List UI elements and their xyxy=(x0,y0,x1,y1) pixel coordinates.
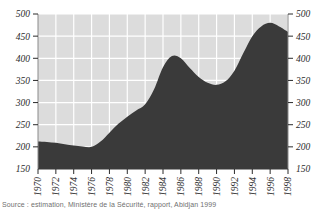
ytick-label-left: 500 xyxy=(16,9,31,19)
ytick-label-right: 350 xyxy=(295,76,311,86)
xtick-label: 1974 xyxy=(69,177,79,196)
xtick-label: 1972 xyxy=(51,177,61,196)
xtick-label: 1982 xyxy=(141,177,151,196)
chart-figure: 150200250300350400450500 150200250300350… xyxy=(0,0,328,210)
ytick-label-right: 300 xyxy=(295,98,311,108)
area-chart: 150200250300350400450500 150200250300350… xyxy=(0,0,328,210)
xtick-label: 1988 xyxy=(194,177,204,196)
xtick-label: 1976 xyxy=(87,177,97,196)
xtick-label: 1970 xyxy=(33,177,43,196)
ytick-label-right: 250 xyxy=(296,120,311,130)
ytick-label-right: 200 xyxy=(296,142,311,152)
ytick-label-left: 400 xyxy=(16,54,31,64)
ytick-label-left: 200 xyxy=(16,142,31,152)
ytick-label-right: 500 xyxy=(296,9,311,19)
xtick-label: 1986 xyxy=(176,177,186,196)
xtick-label: 1980 xyxy=(123,177,133,196)
xtick-label: 1996 xyxy=(266,177,276,196)
xtick-label: 1990 xyxy=(212,177,222,196)
xtick-label: 1992 xyxy=(230,177,240,196)
x-axis-bottom: 1970197219741976197819801982198419861988… xyxy=(33,169,293,196)
ytick-label-left: 150 xyxy=(16,164,31,174)
ytick-label-left: 350 xyxy=(15,76,31,86)
ytick-label-right: 150 xyxy=(296,164,311,174)
y-axis-left: 150200250300350400450500 xyxy=(15,9,38,174)
ytick-label-left: 250 xyxy=(16,120,31,130)
source-caption: Source : estimation, Ministère de la Séc… xyxy=(2,200,328,210)
y-axis-right: 150200250300350400450500 xyxy=(288,9,311,174)
ytick-label-left: 300 xyxy=(15,98,31,108)
xtick-label: 1984 xyxy=(158,177,168,196)
ytick-label-right: 400 xyxy=(296,54,311,64)
xtick-label: 1998 xyxy=(283,177,293,196)
xtick-label: 1994 xyxy=(248,177,258,196)
xtick-label: 1978 xyxy=(105,177,115,196)
ytick-label-right: 450 xyxy=(296,32,311,42)
ytick-label-left: 450 xyxy=(16,32,31,42)
